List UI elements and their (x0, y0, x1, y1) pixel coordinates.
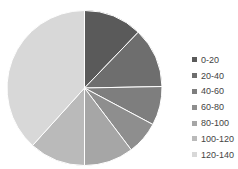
legend-swatch (192, 57, 197, 62)
legend-swatch (192, 89, 197, 94)
legend-swatch (192, 121, 197, 126)
legend-swatch (192, 105, 197, 110)
legend-label: 60-80 (201, 102, 224, 112)
chart-legend: 0-20 20-40 40-60 60-80 80-100 100-120 12… (192, 52, 234, 163)
legend-label: 20-40 (201, 71, 224, 81)
legend-label: 80-100 (201, 118, 229, 128)
legend-item: 0-20 (192, 52, 234, 68)
legend-swatch (192, 152, 197, 157)
legend-label: 40-60 (201, 86, 224, 96)
legend-item: 40-60 (192, 84, 234, 100)
legend-item: 60-80 (192, 99, 234, 115)
legend-label: 120-140 (201, 150, 234, 160)
pie-chart (0, 0, 170, 169)
legend-swatch (192, 136, 197, 141)
legend-item: 20-40 (192, 68, 234, 84)
legend-label: 0-20 (201, 55, 219, 65)
legend-swatch (192, 73, 197, 78)
legend-label: 100-120 (201, 134, 234, 144)
legend-item: 100-120 (192, 131, 234, 147)
legend-item: 120-140 (192, 147, 234, 163)
legend-item: 80-100 (192, 115, 234, 131)
